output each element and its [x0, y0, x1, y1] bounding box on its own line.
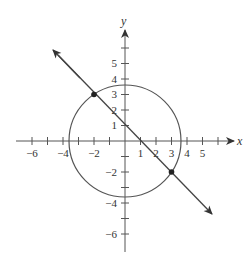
- x-tick-label: −2: [88, 147, 100, 159]
- y-tick-label: −6: [105, 228, 117, 240]
- line: [58, 55, 212, 214]
- x-axis-label: x: [236, 134, 243, 148]
- x-tick-label: 4: [184, 147, 190, 159]
- y-tick-label: −4: [105, 197, 117, 209]
- intersection-point: [169, 169, 175, 175]
- line-arrow-upper: [53, 50, 80, 78]
- x-tick-label: 3: [169, 147, 175, 159]
- x-tick-label: −4: [57, 147, 69, 159]
- x-tick-label: −6: [26, 147, 38, 159]
- y-axis-label: y: [120, 14, 127, 28]
- y-tick-label: −2: [105, 166, 117, 178]
- intersection-point: [91, 92, 97, 98]
- y-tick-label: 3: [112, 88, 118, 100]
- graph: −6 −4 −2 1 2 3 4 5 5 4 3 2 1 −2 −4 −6 x …: [0, 0, 252, 264]
- y-tick-label: 5: [112, 57, 118, 69]
- x-tick-label: 5: [200, 147, 206, 159]
- x-tick-label: 1: [138, 147, 144, 159]
- x-tick-label: 2: [153, 147, 159, 159]
- y-tick-label: 1: [112, 119, 118, 131]
- y-tick-label: 4: [112, 73, 118, 85]
